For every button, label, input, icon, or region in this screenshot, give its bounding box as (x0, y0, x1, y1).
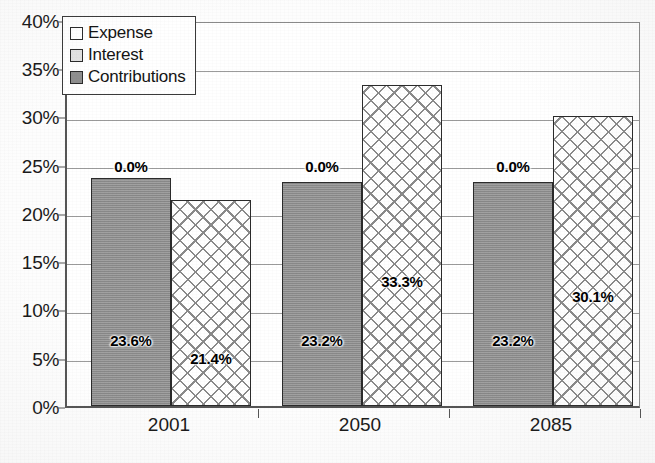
bar-2085-contributions[interactable]: 23.2% (473, 182, 553, 406)
legend: Expense Interest Contributions (62, 16, 196, 95)
y-axis-tick-30 (57, 118, 65, 119)
legend-item-interest[interactable]: Interest (70, 44, 186, 66)
bar-value-2085-expense: 0.0% (496, 158, 529, 175)
x-axis-label-2001: 2001 (148, 414, 190, 436)
bar-value-2050-expense: 0.0% (305, 158, 338, 175)
legend-item-expense[interactable]: Expense (70, 22, 186, 44)
y-axis-label-10: 10% (1, 300, 59, 322)
bar-value-2001-expense: 0.0% (114, 158, 147, 175)
bar-value-2001-contributions: 23.6% (92, 332, 170, 349)
y-axis-label-40: 40% (1, 11, 59, 33)
y-axis-label-35: 35% (1, 59, 59, 81)
y-axis-tick-15 (57, 263, 65, 264)
bar-2050-contributions[interactable]: 23.2% (282, 182, 362, 406)
bar-value-2001-interest: 21.4% (172, 350, 250, 367)
y-axis-tick-5 (57, 360, 65, 361)
y-axis-label-20: 20% (1, 204, 59, 226)
y-axis-tick-20 (57, 215, 65, 216)
bar-2001-contributions[interactable]: 23.6% (91, 178, 171, 406)
legend-label-contributions: Contributions (88, 67, 186, 87)
bar-value-2085-interest: 30.1% (554, 288, 632, 305)
y-axis-label-5: 5% (1, 349, 59, 371)
y-axis-tick-25 (57, 167, 65, 168)
x-axis-tick-2 (449, 409, 450, 418)
legend-item-contributions[interactable]: Contributions (70, 66, 186, 88)
bar-value-2085-contributions: 23.2% (474, 332, 552, 349)
legend-swatch-contributions (70, 71, 83, 84)
y-axis-label-15: 15% (1, 252, 59, 274)
x-axis-tick-1 (258, 409, 259, 418)
y-axis-tick-0 (57, 408, 65, 409)
legend-swatch-expense (70, 27, 83, 40)
x-axis-tick-3 (640, 409, 641, 418)
bar-2085-interest[interactable]: 30.1% (553, 116, 633, 407)
y-axis-label-0: 0% (1, 397, 59, 419)
legend-label-interest: Interest (88, 45, 143, 65)
bar-value-2050-contributions: 23.2% (283, 332, 361, 349)
legend-label-expense: Expense (88, 23, 153, 43)
y-axis-tick-10 (57, 311, 65, 312)
bar-chart: 40% 35% 30% 25% 20% 15% 10% 5% 0% 23.6% (0, 0, 655, 463)
legend-swatch-interest (70, 49, 83, 62)
y-axis-label-30: 30% (1, 107, 59, 129)
x-axis-label-2085: 2085 (530, 414, 572, 436)
bar-value-2050-interest: 33.3% (363, 273, 441, 290)
bar-2050-interest[interactable]: 33.3% (362, 85, 442, 406)
bar-2001-interest[interactable]: 21.4% (171, 200, 251, 407)
y-axis-label-25: 25% (1, 156, 59, 178)
x-axis-label-2050: 2050 (339, 414, 381, 436)
